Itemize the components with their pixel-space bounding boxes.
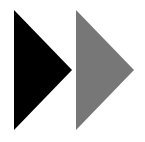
fast-forward-icon xyxy=(0,0,145,142)
